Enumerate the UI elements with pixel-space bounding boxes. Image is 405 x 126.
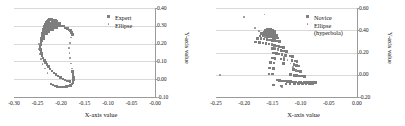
data-point-square	[305, 82, 308, 85]
y-axis-line-left	[155, 8, 156, 97]
legend-item-expert[interactable]: Expert	[104, 14, 132, 21]
x-tick-label: -0.15	[261, 100, 283, 106]
y-tick-label: 0.00	[359, 71, 379, 77]
y-tick-label: 0.60	[359, 5, 379, 11]
data-point-square	[301, 82, 304, 85]
data-point-square	[48, 31, 51, 34]
data-point-square	[269, 61, 272, 64]
gridline	[14, 61, 155, 62]
figure-two-scatter-panels: 0.400.300.200.100.00-0.10 -0.30-0.25-0.2…	[0, 0, 405, 126]
data-point-square	[282, 62, 285, 65]
data-point-ellipse	[281, 86, 283, 88]
legend-dot-marker-icon	[104, 22, 113, 25]
y-tick-label: 0.40	[157, 5, 177, 11]
y-tick-label: 0.10	[157, 58, 177, 64]
data-point-ellipse	[68, 47, 70, 49]
data-point-square	[274, 57, 277, 60]
data-point-ellipse	[69, 42, 71, 44]
data-point-square	[293, 82, 296, 85]
data-point-square	[71, 33, 74, 36]
data-point-square	[272, 84, 275, 87]
data-point-square	[311, 82, 314, 85]
data-point-ellipse	[219, 74, 221, 76]
x-tick-label: 0.00	[346, 100, 368, 106]
data-point-ellipse	[243, 16, 245, 18]
data-point-square	[271, 73, 274, 76]
data-point-square	[289, 73, 292, 76]
gridline	[216, 8, 357, 9]
data-point-square	[314, 81, 317, 84]
data-point-square	[289, 82, 292, 85]
x-tick-label: -0.10	[97, 100, 119, 106]
data-point-square	[299, 70, 302, 73]
x-tick-label: -0.25	[27, 100, 49, 106]
data-point-ellipse	[38, 43, 40, 45]
data-point-square	[273, 62, 276, 65]
data-point-square	[285, 83, 288, 86]
x-tick-label: -0.05	[121, 100, 143, 106]
x-tick-label: -0.10	[290, 100, 312, 106]
data-point-square	[303, 75, 306, 78]
y-tick-label: 0.40	[359, 27, 379, 33]
legend-label: Novice	[312, 14, 332, 21]
legend-item-ellipse-hyperbola[interactable]: Ellipse (hyperbola)	[303, 22, 343, 36]
data-point-square	[298, 65, 301, 68]
x-axis-line-left	[14, 97, 156, 98]
data-point-square	[278, 40, 281, 43]
data-point-ellipse	[47, 72, 49, 74]
legend-square-marker-icon	[303, 14, 312, 18]
x-tick-label: -0.05	[318, 100, 340, 106]
data-point-square	[71, 70, 74, 73]
legend-right: Novice Ellipse (hyperbola)	[303, 14, 343, 38]
x-tick-label: -0.25	[205, 100, 227, 106]
chart-panel-novice: 0.600.400.200.00-0.20 -0.25-0.20-0.15-0.…	[202, 0, 405, 126]
data-point-square	[254, 41, 257, 44]
data-point-ellipse	[283, 56, 285, 58]
y-axis-title-right: Y-axis value	[387, 32, 394, 64]
y-tick-label: 0.20	[157, 40, 177, 46]
gridline	[14, 8, 155, 9]
y-tick-label: 0.30	[157, 22, 177, 28]
data-point-ellipse	[69, 57, 71, 59]
data-point-square	[277, 37, 280, 40]
data-point-square	[50, 83, 53, 86]
data-point-square	[272, 67, 275, 70]
data-point-square	[285, 50, 288, 53]
legend-label-sub: (hyperbola)	[314, 29, 343, 36]
legend-item-ellipse[interactable]: Ellipse	[104, 22, 132, 29]
data-point-square	[283, 58, 286, 61]
gridline	[14, 44, 155, 45]
data-point-square	[55, 26, 58, 29]
data-point-square	[51, 28, 54, 31]
x-tick-label: -0.20	[233, 100, 255, 106]
y-tick-label: 0.20	[359, 49, 379, 55]
gridline	[14, 26, 155, 27]
data-point-square	[262, 42, 265, 45]
legend-label: Ellipse	[314, 22, 331, 29]
legend-item-novice[interactable]: Novice	[303, 14, 343, 21]
x-tick-label: -0.00	[144, 100, 166, 106]
x-axis-title-left: X-axis value	[0, 111, 202, 118]
y-axis-line-right	[357, 8, 358, 97]
y-tick-label: 0.00	[157, 76, 177, 82]
data-point-ellipse	[40, 58, 42, 60]
data-point-square	[256, 37, 259, 40]
data-point-ellipse	[254, 27, 256, 29]
data-point-ellipse	[292, 66, 294, 68]
data-point-ellipse	[39, 53, 41, 55]
data-point-square	[297, 82, 300, 85]
gridline	[14, 79, 155, 80]
data-point-ellipse	[277, 49, 279, 51]
x-tick-label: -0.30	[3, 100, 25, 106]
data-point-square	[258, 41, 261, 44]
data-point-square	[45, 33, 48, 36]
gridline	[216, 75, 357, 76]
y-axis-title-left: Y-axis value	[184, 32, 191, 64]
legend-square-marker-icon	[104, 14, 113, 18]
x-axis-title-right: X-axis value	[202, 111, 405, 118]
data-point-square	[296, 60, 299, 63]
data-point-ellipse	[258, 30, 260, 32]
data-point-square	[282, 46, 285, 49]
data-point-square	[291, 55, 294, 58]
data-point-ellipse	[264, 36, 266, 38]
